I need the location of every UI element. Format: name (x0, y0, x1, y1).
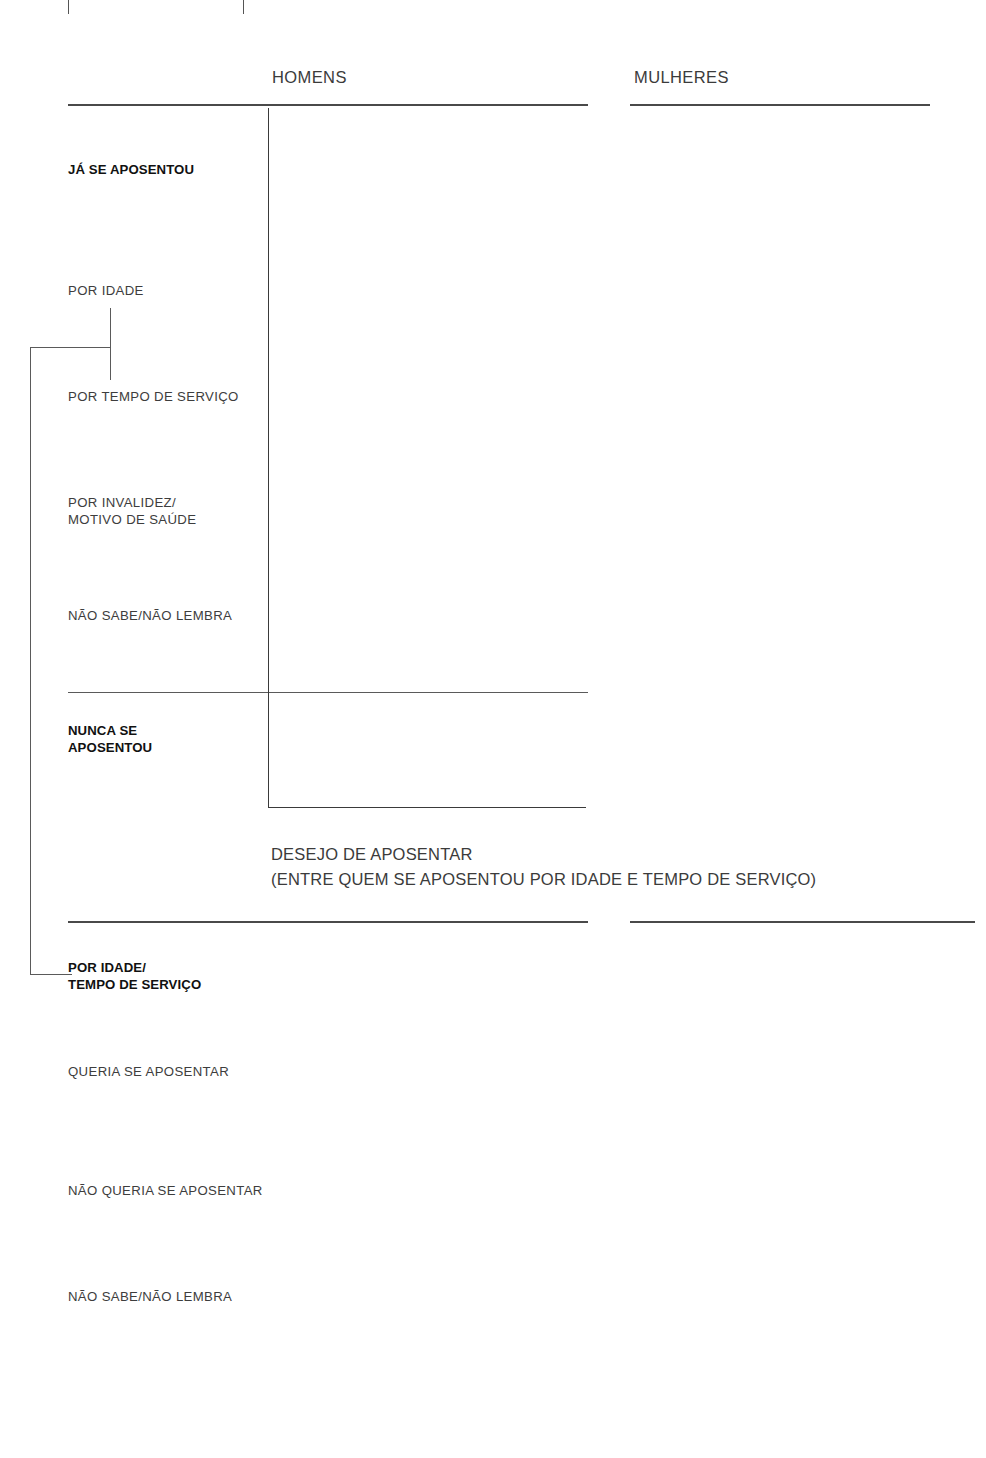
cat-label-por-idade-tempo-de-servico: POR IDADE/ TEMPO DE SERVIÇO (68, 959, 201, 994)
cat-label-nao-sabe-nao-lembra-lower: NÃO SABE/NÃO LEMBRA (68, 1288, 232, 1305)
bracket-vertical-stub (110, 308, 111, 348)
top-table-rule-2 (243, 0, 244, 14)
nunca-block-separator-left (68, 692, 588, 693)
bracket-top-horizontal (30, 347, 111, 348)
cat-label-por-invalidez: POR INVALIDEZ/ MOTIVO DE SAÚDE (68, 494, 196, 529)
bracket-bottom-horizontal (30, 974, 72, 975)
cat-label-por-tempo-de-servico: POR TEMPO DE SERVIÇO (68, 388, 239, 405)
bracket-vertical-main (30, 347, 31, 975)
cat-label-nao-queria-se-aposentar: NÃO QUERIA SE APOSENTAR (68, 1182, 263, 1199)
top-chart-separator-left (68, 104, 588, 106)
cat-label-por-idade: POR IDADE (68, 282, 144, 299)
bracket-stub-to-por-tempo (110, 347, 111, 380)
x-axis (268, 807, 586, 808)
panel-title-homens: HOMENS (272, 68, 347, 87)
section-subtitle-line1: DESEJO DE APOSENTAR (271, 843, 473, 866)
cat-label-nao-sabe-nao-lembra-upper: NÃO SABE/NÃO LEMBRA (68, 607, 232, 624)
cat-label-ja-se-aposentou: JÁ SE APOSENTOU (68, 161, 194, 178)
section-subtitle-line2: (ENTRE QUEM SE APOSENTOU POR IDADE E TEM… (271, 868, 816, 891)
bottom-chart-separator-right (630, 921, 975, 923)
top-chart-separator-right (630, 104, 930, 106)
top-table-rule-1 (68, 0, 69, 14)
cat-label-nunca-se-aposentou: NUNCA SE APOSENTOU (68, 722, 152, 757)
bottom-chart-separator-left (68, 921, 588, 923)
cat-label-queria-se-aposentar: QUERIA SE APOSENTAR (68, 1063, 229, 1080)
y-axis (268, 108, 269, 807)
panel-title-mulheres: MULHERES (634, 68, 729, 87)
